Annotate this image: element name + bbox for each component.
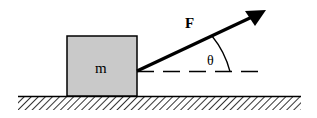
angle-arc <box>212 36 230 72</box>
force-diagram: m F θ <box>0 0 317 118</box>
force-arrow-shaft <box>137 17 252 71</box>
diagram-canvas: m F θ <box>0 0 317 118</box>
force-label: F <box>185 15 194 31</box>
angle-label: θ <box>207 53 214 68</box>
mass-label: m <box>95 60 107 76</box>
ground-hatching <box>18 97 301 110</box>
